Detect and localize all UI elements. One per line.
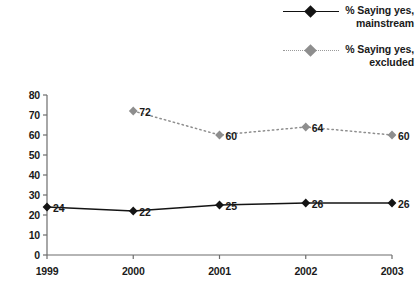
chart-container: % Saying yes,mainstream % Saying yes,exc… bbox=[0, 0, 420, 295]
y-axis-tick-label: 30 bbox=[16, 189, 40, 201]
y-axis-tick-label: 60 bbox=[16, 129, 40, 141]
x-axis-tick-label: 1999 bbox=[36, 265, 59, 277]
data-point-diamond-marker bbox=[388, 131, 397, 140]
data-point-diamond-marker bbox=[301, 123, 310, 132]
data-point-value-label: 60 bbox=[398, 130, 409, 142]
y-axis-tick-label: 10 bbox=[16, 229, 40, 241]
y-axis-tick-label: 40 bbox=[16, 169, 40, 181]
data-point-value-label: 22 bbox=[139, 206, 150, 218]
plot-area bbox=[0, 0, 420, 295]
data-point-diamond-marker bbox=[215, 131, 224, 140]
x-axis-tick-label: 2003 bbox=[381, 265, 404, 277]
x-axis-tick-label: 2002 bbox=[294, 265, 317, 277]
data-point-diamond-marker bbox=[388, 199, 397, 208]
data-point-value-label: 72 bbox=[139, 106, 150, 118]
data-point-diamond-marker bbox=[215, 201, 224, 210]
data-point-value-label: 26 bbox=[312, 198, 323, 210]
y-axis-tick-label: 80 bbox=[16, 89, 40, 101]
x-axis-tick-label: 2000 bbox=[122, 265, 145, 277]
data-point-value-label: 25 bbox=[226, 200, 237, 212]
y-axis-tick-label: 0 bbox=[16, 249, 40, 261]
data-point-diamond-marker bbox=[43, 203, 52, 212]
y-axis-tick-label: 20 bbox=[16, 209, 40, 221]
series-line-excluded bbox=[133, 111, 392, 135]
data-point-diamond-marker bbox=[301, 199, 310, 208]
data-point-diamond-marker bbox=[129, 107, 138, 116]
y-axis-tick-label: 70 bbox=[16, 109, 40, 121]
plot-svg bbox=[0, 0, 420, 295]
data-point-value-label: 26 bbox=[398, 198, 409, 210]
data-point-diamond-marker bbox=[129, 207, 138, 216]
data-point-value-label: 64 bbox=[312, 122, 323, 134]
y-axis-tick-label: 50 bbox=[16, 149, 40, 161]
x-axis-tick-label: 2001 bbox=[208, 265, 231, 277]
data-point-value-label: 24 bbox=[53, 202, 64, 214]
data-point-value-label: 60 bbox=[226, 130, 237, 142]
